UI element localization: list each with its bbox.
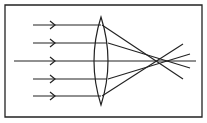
diagram-canvas	[0, 0, 207, 123]
lens-diagram	[0, 0, 207, 123]
